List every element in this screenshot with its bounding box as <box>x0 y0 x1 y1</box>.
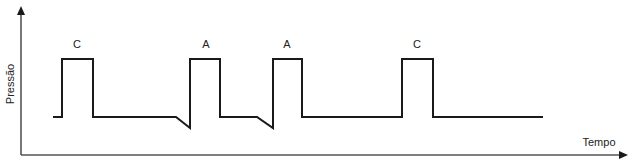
pulse-label-2: A <box>202 38 210 50</box>
pressure-signal-line <box>53 59 543 128</box>
y-axis-arrow-icon <box>17 6 25 15</box>
x-axis-arrow-icon <box>619 151 628 159</box>
pulse-label-1: C <box>73 38 81 50</box>
x-axis-label: Tempo <box>582 136 615 148</box>
y-axis-label: Pressão <box>4 64 16 104</box>
pulse-label-3: A <box>283 38 291 50</box>
pressure-time-diagram: Pressão Tempo C A A C <box>0 0 633 162</box>
pulse-label-4: C <box>413 38 421 50</box>
